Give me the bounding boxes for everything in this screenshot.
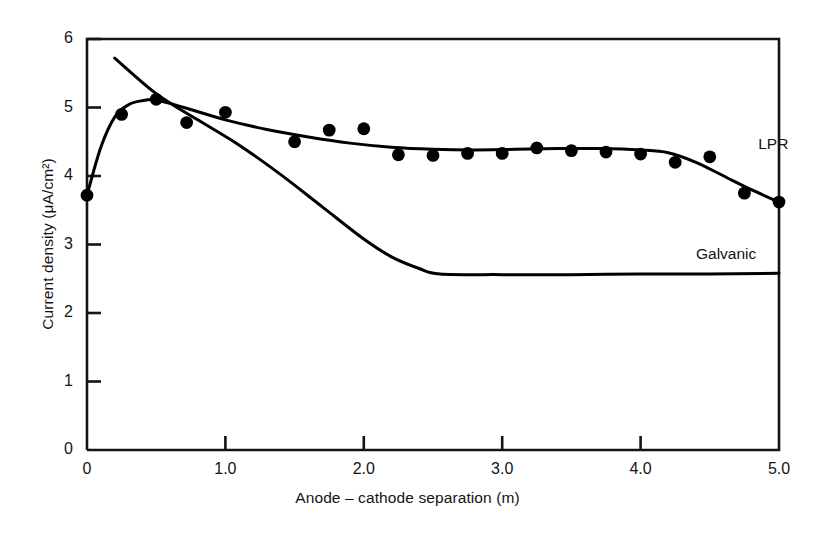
figure-container: Anode – cathode separation (m) Current d… — [0, 0, 815, 539]
y-tick-label: 4 — [43, 166, 73, 184]
axes-frame — [87, 39, 779, 450]
x-tick-label: 5.0 — [749, 460, 809, 478]
y-tick-label: 0 — [43, 440, 73, 458]
y-tick-label: 3 — [43, 235, 73, 253]
series-label-lpr: LPR — [758, 135, 788, 153]
series-markers-lpr — [81, 93, 786, 209]
chart-plot-area — [0, 0, 815, 539]
x-tick-label: 3.0 — [472, 460, 532, 478]
axis-ticks — [87, 39, 641, 450]
y-tick-label: 1 — [43, 372, 73, 390]
y-tick-label: 2 — [43, 303, 73, 321]
x-tick-label: 4.0 — [611, 460, 671, 478]
x-tick-label: 0 — [57, 460, 117, 478]
x-axis-title: Anode – cathode separation (m) — [0, 489, 815, 507]
x-tick-label: 1.0 — [195, 460, 255, 478]
y-tick-label: 6 — [43, 29, 73, 47]
y-tick-label: 5 — [43, 98, 73, 116]
x-tick-label: 2.0 — [334, 460, 394, 478]
series-label-galvanic: Galvanic — [696, 245, 756, 263]
